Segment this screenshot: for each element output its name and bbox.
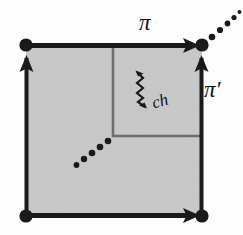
bottom-left-vertex-dot — [19, 209, 32, 222]
label-pi: π — [139, 11, 151, 34]
label-pi-prime: π′ — [204, 78, 221, 101]
top-right-vertex-dot — [195, 38, 208, 51]
diagram-svg — [0, 0, 243, 235]
figure-canvas: π π′ ch — [0, 0, 243, 235]
outer-dotted-diagonal — [209, 10, 242, 40]
bottom-right-vertex-dot — [195, 209, 208, 222]
top-left-vertex-dot — [19, 38, 32, 51]
